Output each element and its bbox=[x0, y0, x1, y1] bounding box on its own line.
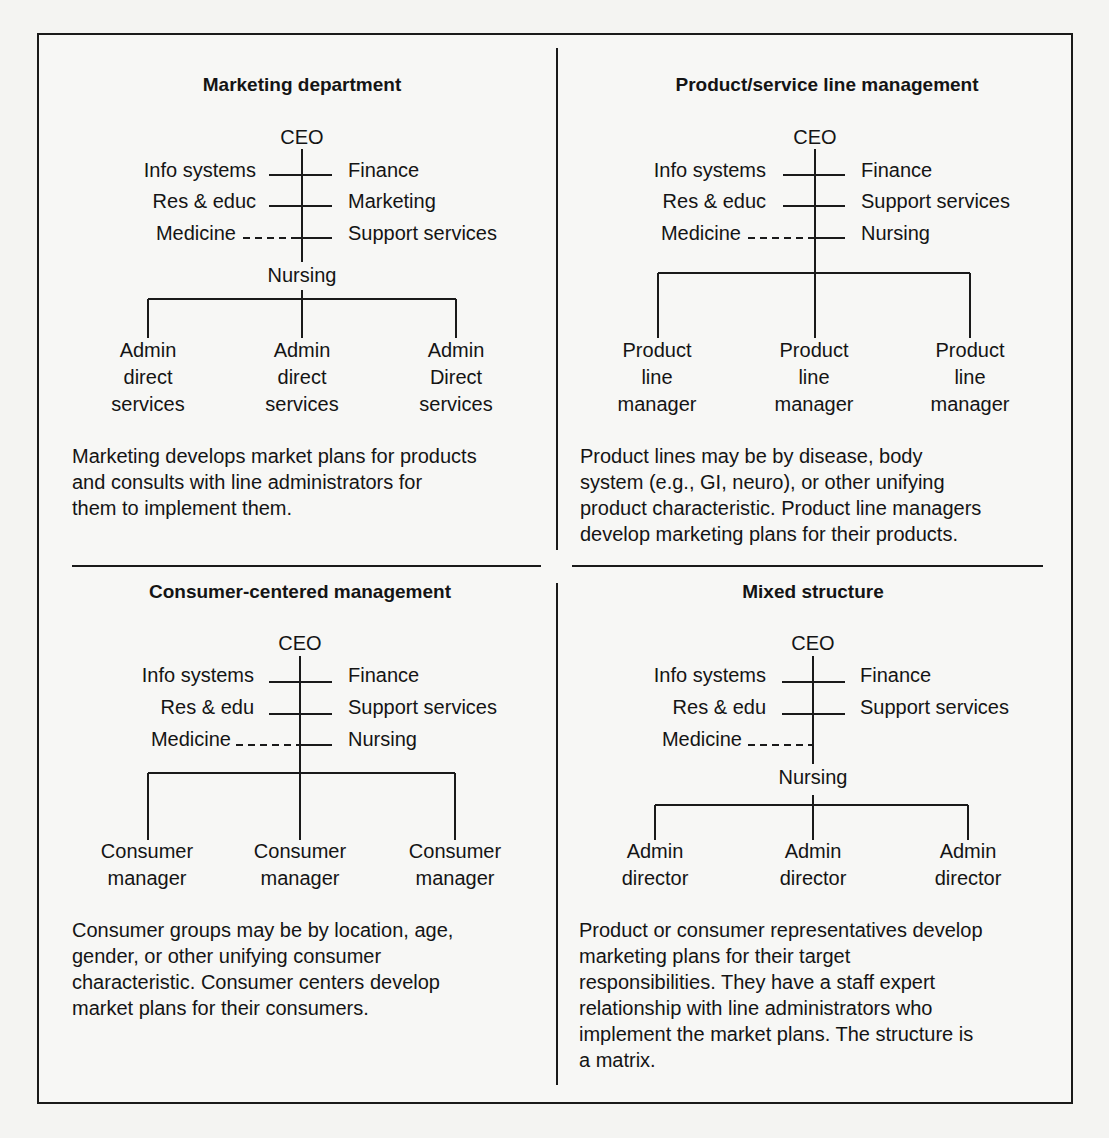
child-node: Admin direct services bbox=[111, 337, 184, 418]
child-node: Admin Direct services bbox=[419, 337, 492, 418]
research-education-node: Res & edu bbox=[161, 696, 254, 719]
child-node: Admin direct services bbox=[265, 337, 338, 418]
ceo-node: CEO bbox=[793, 126, 836, 149]
quadrant-title: Consumer-centered management bbox=[149, 580, 451, 603]
child-node: Admin director bbox=[622, 838, 689, 892]
info-systems-node: Info systems bbox=[654, 664, 766, 687]
quadrant-title: Product/service line management bbox=[675, 73, 978, 96]
nursing-node: Nursing bbox=[861, 222, 930, 245]
child-node: Consumer manager bbox=[101, 838, 193, 892]
quadrant-description: Marketing develops market plans for prod… bbox=[72, 443, 477, 521]
ceo-node: CEO bbox=[278, 632, 321, 655]
medicine-node: Medicine bbox=[156, 222, 236, 245]
finance-node: Finance bbox=[348, 664, 419, 687]
support-services-node: Support services bbox=[348, 696, 497, 719]
support-services-node: Support services bbox=[860, 696, 1009, 719]
child-node: Product line manager bbox=[775, 337, 854, 418]
finance-node: Finance bbox=[860, 664, 931, 687]
child-node: Product line manager bbox=[618, 337, 697, 418]
ceo-node: CEO bbox=[280, 126, 323, 149]
child-node: Admin director bbox=[780, 838, 847, 892]
quadrant-description: Product or consumer representatives deve… bbox=[579, 917, 983, 1073]
info-systems-node: Info systems bbox=[654, 159, 766, 182]
child-node: Admin director bbox=[935, 838, 1002, 892]
child-node: Product line manager bbox=[931, 337, 1010, 418]
research-education-node: Res & educ bbox=[663, 190, 766, 213]
medicine-node: Medicine bbox=[662, 728, 742, 751]
support-services-node: Support services bbox=[348, 222, 497, 245]
quadrant-title: Mixed structure bbox=[742, 580, 883, 603]
quadrant-description: Consumer groups may be by location, age,… bbox=[72, 917, 453, 1021]
research-education-node: Res & edu bbox=[673, 696, 766, 719]
nursing-node: Nursing bbox=[348, 728, 417, 751]
finance-node: Finance bbox=[861, 159, 932, 182]
child-node: Consumer manager bbox=[409, 838, 501, 892]
support-services-node: Support services bbox=[861, 190, 1010, 213]
finance-node: Finance bbox=[348, 159, 419, 182]
research-education-node: Res & educ bbox=[153, 190, 256, 213]
quadrant-title: Marketing department bbox=[203, 73, 401, 96]
nursing-node: Nursing bbox=[779, 766, 848, 789]
nursing-node: Nursing bbox=[268, 264, 337, 287]
info-systems-node: Info systems bbox=[144, 159, 256, 182]
quadrant-description: Product lines may be by disease, body sy… bbox=[580, 443, 981, 547]
marketing-node: Marketing bbox=[348, 190, 436, 213]
ceo-node: CEO bbox=[791, 632, 834, 655]
medicine-node: Medicine bbox=[661, 222, 741, 245]
medicine-node: Medicine bbox=[151, 728, 231, 751]
child-node: Consumer manager bbox=[254, 838, 346, 892]
info-systems-node: Info systems bbox=[142, 664, 254, 687]
